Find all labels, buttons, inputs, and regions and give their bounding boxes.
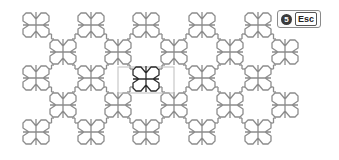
motif [133,12,159,38]
pattern-motifs [23,12,298,145]
motif [50,92,76,118]
motif [217,92,243,118]
motif [23,65,49,91]
motif [105,39,131,65]
step-number: 5 [281,14,292,25]
motif [23,119,49,145]
motif [189,12,215,38]
motif [245,12,271,38]
motif [189,119,215,145]
motif [161,39,187,65]
motif [245,119,271,145]
motif [133,66,159,92]
motif [245,65,271,91]
motif [189,65,215,91]
motif [50,39,76,65]
motif [23,12,49,38]
step-badge[interactable]: 5 Esc [277,10,321,28]
motif [105,92,131,118]
motif [217,39,243,65]
motif [272,92,298,118]
motif [272,39,298,65]
motif [78,65,104,91]
highlighted-motif[interactable] [133,66,159,92]
esc-key-icon: Esc [295,12,317,26]
motif [78,119,104,145]
motif [78,12,104,38]
motif [161,92,187,118]
motif [133,119,159,145]
